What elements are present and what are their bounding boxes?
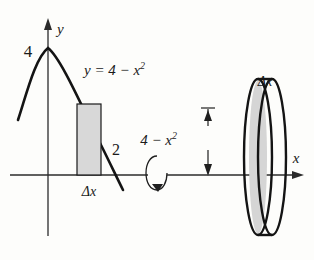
left-graph-group: 4 y y = 4 − x2 2 Δx (10, 18, 148, 236)
rotation-symbol-group (146, 156, 167, 192)
radius-up-arrowhead-icon (204, 110, 212, 121)
figure-container: 4 y y = 4 − x2 2 Δx 4 − x2 (0, 0, 314, 260)
disk-thickness-label: Δx (257, 74, 273, 89)
x-axis-arrowhead-icon (292, 171, 304, 179)
radius-down-arrowhead-icon (204, 164, 212, 176)
y-intercept-label: 4 (24, 42, 33, 61)
curve-equation-label: y = 4 − x2 (82, 60, 145, 78)
x-intercept-label: 2 (112, 141, 120, 158)
rectangle-width-label: Δx (81, 184, 97, 199)
y-axis-label: y (55, 21, 64, 37)
y-axis-arrowhead-icon (44, 18, 52, 30)
disk-radius-label: 4 − x2 (140, 130, 177, 148)
disk-method-figure: 4 y y = 4 − x2 2 Δx 4 − x2 (0, 0, 314, 260)
disk-group: Δx x (167, 74, 304, 235)
right-x-axis-label: x (292, 150, 300, 166)
representative-rectangle (77, 104, 101, 175)
disk-radius-dimension-group: 4 − x2 (140, 108, 215, 176)
